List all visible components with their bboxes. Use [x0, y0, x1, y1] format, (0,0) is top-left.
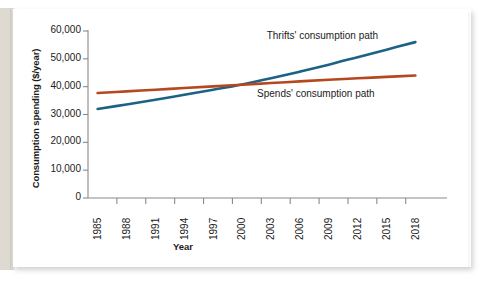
series-line [98, 42, 416, 109]
axis-lines [88, 30, 447, 198]
figure-screenshot: Consumption spending ($/year) Year 010,0… [0, 0, 485, 284]
plot-area [13, 9, 471, 267]
series-lines [98, 42, 416, 109]
series-line [98, 76, 416, 94]
consumption-path-chart: Consumption spending ($/year) Year 010,0… [13, 9, 471, 267]
